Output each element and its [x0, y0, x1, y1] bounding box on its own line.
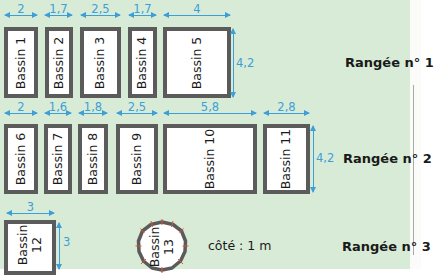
bassin-11-label: Bassin 11	[280, 129, 294, 190]
bassin-12: Bassin 12	[4, 220, 56, 275]
bassin-12-label-line1: Bassin	[16, 224, 30, 265]
bassin-1-label: Bassin 1	[14, 36, 28, 89]
bassin-7-label: Bassin 7	[51, 133, 65, 186]
bassin-1: Bassin 1	[4, 27, 38, 98]
bassin-11: Bassin 11	[263, 124, 310, 194]
bassin-13-label-line1: Bassin	[148, 227, 162, 268]
row-3-label: Rangée n° 3	[342, 239, 431, 254]
height-dim-bassin-12: 3	[63, 236, 70, 248]
bassin-2-label: Bassin 2	[52, 36, 66, 89]
bassin-13-side-note: côté : 1 m	[208, 238, 271, 253]
row-2-label: Rangée n° 2	[343, 151, 432, 166]
bassin-7: Bassin 7	[44, 124, 72, 194]
width-dim-bassin-3: 2,5	[81, 3, 120, 15]
bassin-10: Bassin 10	[163, 124, 257, 194]
bassin-9-label: Bassin 9	[130, 133, 144, 186]
width-dim-bassin-2: 1,7	[45, 3, 72, 15]
width-dim-bassin-9: 2,5	[117, 101, 157, 113]
width-dim-bassin-7: 1,6	[45, 101, 71, 113]
width-dim-bassin-12: 3	[7, 201, 54, 213]
height-dim-row-2: 4,2	[316, 152, 334, 164]
bassin-3-label: Bassin 3	[94, 36, 108, 89]
bassin-6-label: Bassin 6	[14, 133, 28, 186]
height-arrow-row-1	[233, 29, 234, 97]
bassin-9: Bassin 9	[116, 124, 158, 194]
width-dim-bassin-6: 2	[5, 101, 37, 113]
bassin-6: Bassin 6	[4, 124, 38, 194]
width-dim-bassin-8: 1,8	[79, 101, 107, 113]
width-dim-bassin-11: 2,8	[264, 101, 309, 113]
page-edge-line	[413, 85, 414, 255]
bassin-4-label: Bassin 4	[136, 36, 150, 89]
bassin-10-label: Bassin 10	[203, 129, 217, 190]
bassin-5-label: Bassin 5	[190, 36, 204, 89]
width-dim-bassin-5: 4	[164, 3, 230, 15]
bassin-8: Bassin 8	[78, 124, 108, 194]
bassin-8-label: Bassin 8	[86, 133, 100, 186]
width-dim-bassin-10: 5,8	[164, 101, 256, 113]
height-arrow-bassin-12	[59, 223, 60, 269]
bassin-4: Bassin 4	[128, 27, 157, 98]
width-dim-bassin-1: 2	[5, 3, 37, 15]
row-1-label: Rangée n° 1	[345, 55, 434, 70]
right-margin	[410, 0, 421, 269]
bassin-2: Bassin 2	[45, 27, 73, 98]
bassin-5: Bassin 5	[163, 27, 231, 98]
height-dim-row-1: 4,2	[236, 57, 254, 69]
height-arrow-row-2	[313, 126, 314, 192]
width-dim-bassin-4: 1,7	[129, 3, 156, 15]
bassin-3: Bassin 3	[80, 27, 121, 98]
bassin-12-label-line2: 12	[30, 224, 44, 265]
bassin-12-label: Bassin 12	[16, 224, 44, 265]
bassin-13-label-line2: 13	[162, 239, 176, 255]
bassin-13-label: Bassin 13	[147, 225, 177, 269]
